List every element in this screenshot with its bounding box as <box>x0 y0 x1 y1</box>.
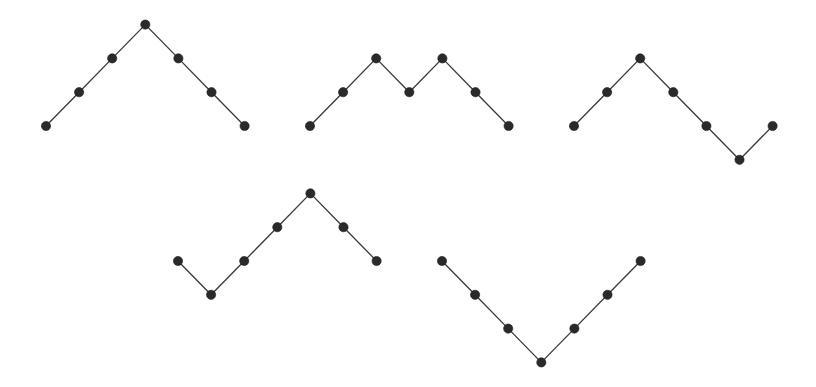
path-5-vertex-dot <box>603 290 612 299</box>
path-group-2 <box>305 54 513 131</box>
path-4-vertex-dot <box>372 256 381 265</box>
path-2-vertex-dot <box>438 54 447 63</box>
path-5-vertex-dot <box>636 256 645 265</box>
path-4-vertex-dot <box>207 290 216 299</box>
path-1-vertex-dot <box>207 88 216 97</box>
path-3-line <box>574 58 773 159</box>
path-1-vertex-dot <box>174 54 183 63</box>
path-3-vertex-dot <box>569 121 578 130</box>
path-group-1 <box>41 20 249 131</box>
path-1-vertex-dot <box>141 20 150 29</box>
path-1-vertex-dot <box>108 54 117 63</box>
path-2-vertex-dot <box>305 121 314 130</box>
path-4-vertex-dot <box>273 223 282 232</box>
path-1-vertex-dot <box>240 121 249 130</box>
path-3-vertex-dot <box>735 155 744 164</box>
path-group-5 <box>437 256 645 367</box>
path-5-line <box>442 261 641 362</box>
path-2-vertex-dot <box>405 88 414 97</box>
path-5-vertex-dot <box>437 256 446 265</box>
path-5-vertex-dot <box>537 358 546 367</box>
path-3-vertex-dot <box>669 88 678 97</box>
path-2-vertex-dot <box>471 88 480 97</box>
path-1-line <box>46 25 245 126</box>
path-4-line <box>178 193 377 294</box>
path-3-vertex-dot <box>603 88 612 97</box>
path-2-vertex-dot <box>339 88 348 97</box>
path-5-vertex-dot <box>471 290 480 299</box>
path-5-vertex-dot <box>570 324 579 333</box>
path-1-vertex-dot <box>41 121 50 130</box>
path-2-vertex-dot <box>372 54 381 63</box>
path-3-vertex-dot <box>702 121 711 130</box>
path-1-vertex-dot <box>75 88 84 97</box>
path-3-vertex-dot <box>636 54 645 63</box>
path-5-vertex-dot <box>504 324 513 333</box>
path-2-vertex-dot <box>504 121 513 130</box>
path-4-vertex-dot <box>240 256 249 265</box>
path-4-vertex-dot <box>339 223 348 232</box>
path-4-vertex-dot <box>306 189 315 198</box>
path-group-3 <box>569 54 777 165</box>
path-group-4 <box>173 189 381 300</box>
path-4-vertex-dot <box>173 256 182 265</box>
lattice-paths-diagram <box>0 0 816 387</box>
path-3-vertex-dot <box>768 121 777 130</box>
